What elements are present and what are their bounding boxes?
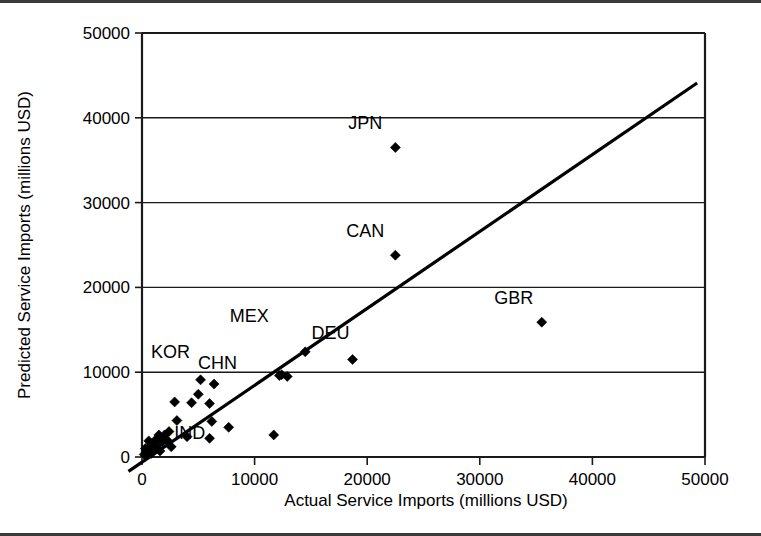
x-tick-label: 10000 — [231, 470, 278, 489]
data-point-label: MEX — [230, 306, 269, 326]
scatter-plot: JPNCANGBRMEXDEUCHNKORIND 010000200003000… — [0, 0, 761, 536]
point-labels: JPNCANGBRMEXDEUCHNKORIND — [151, 113, 533, 443]
x-tick-label: 30000 — [456, 470, 503, 489]
axis-ticks — [135, 33, 705, 465]
y-tick-label: 20000 — [83, 278, 130, 297]
data-point-marker — [170, 397, 180, 407]
x-tick-label: 20000 — [344, 470, 391, 489]
gridlines — [142, 33, 705, 372]
data-point-label: CAN — [346, 221, 384, 241]
data-point-marker — [390, 142, 400, 152]
plot-frame — [142, 33, 705, 457]
data-point-marker — [348, 354, 358, 364]
data-point-marker — [269, 430, 279, 440]
data-point-marker — [209, 379, 219, 389]
data-point-marker — [193, 389, 203, 399]
chart-container: JPNCANGBRMEXDEUCHNKORIND 010000200003000… — [0, 0, 761, 536]
data-point-marker — [390, 250, 400, 260]
x-tick-label: 40000 — [569, 470, 616, 489]
x-tick-label: 50000 — [681, 470, 728, 489]
data-markers — [139, 142, 546, 459]
data-point-marker — [205, 433, 215, 443]
data-point-label: GBR — [494, 288, 533, 308]
y-axis-title: Predicted Service Imports (millions USD) — [15, 91, 34, 399]
x-axis-title: Actual Service Imports (millions USD) — [284, 491, 567, 510]
y-tick-label: 30000 — [83, 194, 130, 213]
y-tick-label: 50000 — [83, 24, 130, 43]
data-point-marker — [224, 422, 234, 432]
data-point-label: IND — [174, 423, 205, 443]
y-tick-label: 10000 — [83, 363, 130, 382]
data-point-marker — [537, 317, 547, 327]
data-point-marker — [196, 375, 206, 385]
top-edge-bar — [0, 0, 761, 3]
data-point-label: KOR — [151, 342, 190, 362]
regression-line — [128, 83, 697, 471]
data-point-marker — [205, 399, 215, 409]
data-point-label: CHN — [198, 353, 237, 373]
data-point-marker — [187, 398, 197, 408]
data-point-label: DEU — [312, 323, 350, 343]
y-tick-label: 40000 — [83, 109, 130, 128]
y-tick-label: 0 — [121, 448, 130, 467]
x-tick-label: 0 — [137, 470, 146, 489]
data-point-label: JPN — [348, 113, 382, 133]
trend-line — [128, 83, 697, 471]
